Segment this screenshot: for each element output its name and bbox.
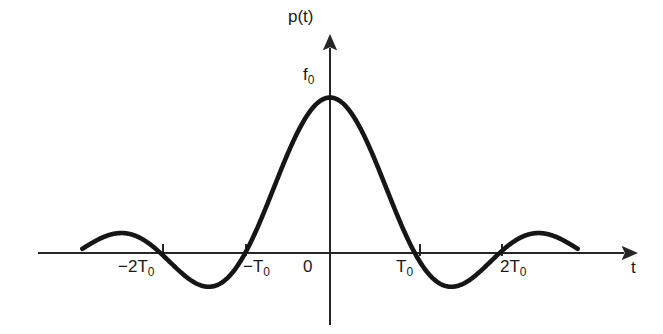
x-tick-label-2t0: 2T0 — [500, 258, 527, 275]
sinc-function-figure: p(t) f0 −2T0 −T0 0 T0 2T0 t — [0, 0, 663, 334]
x-tick-label-minus-t0: −T0 — [243, 258, 270, 275]
peak-amplitude-label: f0 — [303, 66, 314, 83]
x-axis-label: t — [631, 259, 636, 276]
y-axis-label: p(t) — [288, 8, 314, 25]
plot-canvas — [0, 0, 663, 334]
x-tick-label-t0: T0 — [396, 258, 413, 275]
x-tick-label-minus-2t0: −2T0 — [118, 258, 154, 275]
x-tick-label-zero: 0 — [303, 258, 312, 275]
